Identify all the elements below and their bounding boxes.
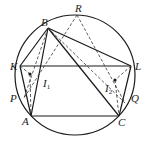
point-I1 (28, 72, 31, 75)
label-I1: I1 (42, 77, 51, 91)
label-K: K (9, 60, 18, 72)
label-R: R (74, 2, 82, 14)
label-Q: Q (131, 92, 139, 104)
point-I2 (113, 78, 116, 81)
label-L: L (134, 60, 141, 72)
segment-BA (31, 28, 48, 116)
geometry-diagram: BRKLACPQI1I2 (0, 0, 149, 147)
dashed-segment-RP (24, 15, 77, 98)
label-C: C (118, 116, 126, 128)
label-A: A (21, 115, 29, 127)
label-B: B (41, 16, 48, 28)
dashed-segment-I2C (115, 80, 119, 116)
circumcircle (15, 15, 135, 135)
label-I2: I2 (104, 82, 113, 96)
label-P: P (9, 92, 17, 104)
dashed-segment-RQ (77, 15, 125, 103)
